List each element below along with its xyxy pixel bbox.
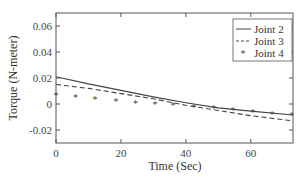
joint-4-marker: * [153,99,158,110]
y-tick-label: 0.06 [33,20,53,32]
joint-4-marker: * [211,103,216,114]
joint-4-marker: * [133,98,138,109]
joint-4-marker: * [269,109,274,120]
joint-4-marker: * [92,94,97,105]
y-axis-label: Torque (N-meter) [6,36,20,121]
y-tick-label: 0 [47,98,53,110]
y-tick-label: 0.02 [33,72,52,84]
legend-joint-4-label: Joint 4 [254,47,284,59]
x-axis-label: Time (Sec) [148,159,201,173]
joint-4-marker: * [170,100,175,111]
x-tick-label: 20 [115,147,127,159]
legend: Joint 2Joint 3*Joint 4 [233,19,292,61]
joint-4-marker: * [250,107,255,118]
joint-4-marker: * [73,92,78,103]
plot-area: ************* [54,77,295,121]
y-tick-label: -0.02 [29,124,52,136]
y-tick-label: 0.04 [33,46,53,58]
joint-4-marker: * [191,102,196,113]
x-tick-label: 60 [245,147,257,159]
x-tick-label: 40 [180,147,192,159]
joint-4-marker: * [230,105,235,116]
legend-joint-3-label: Joint 3 [254,35,284,47]
torque-chart: ************* -0.0200.020.040.060204060 … [0,0,304,188]
legend-joint-2-label: Joint 2 [254,23,284,35]
x-tick-label: 0 [53,147,59,159]
joint-4-marker: * [114,96,119,107]
legend-joint-4-marker-icon: * [241,48,246,59]
